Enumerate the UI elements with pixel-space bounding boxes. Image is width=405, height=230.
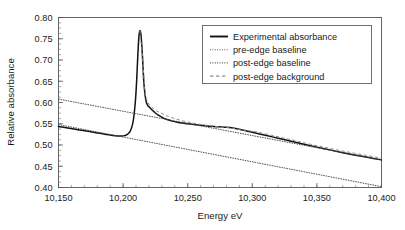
legend-label: post-edge baseline — [233, 58, 311, 68]
y-tick-label: 0.80 — [35, 13, 53, 23]
x-tick-label: 10,400 — [367, 193, 395, 203]
x-tick-label: 10,200 — [109, 193, 137, 203]
legend-label: pre-edge baseline — [233, 45, 307, 55]
legend-label: Experimental absorbance — [233, 32, 337, 42]
x-tick-label: 10,250 — [174, 193, 202, 203]
chart-figure: 0.400.450.500.550.600.650.700.750.80 10,… — [0, 0, 405, 230]
y-tick-label: 0.50 — [35, 140, 53, 150]
y-tick-label: 0.70 — [35, 55, 53, 65]
y-axis-title: Relative absorbance — [5, 58, 16, 145]
chart-canvas: 0.400.450.500.550.600.650.700.750.80 10,… — [0, 0, 405, 230]
y-tick-label: 0.65 — [35, 77, 53, 87]
y-tick-labels: 0.400.450.500.550.600.650.700.750.80 — [35, 13, 53, 193]
y-tick-label: 0.60 — [35, 98, 53, 108]
y-tick-label: 0.55 — [35, 119, 53, 129]
y-tick-label: 0.40 — [35, 183, 53, 193]
legend-label: post-edge background — [233, 72, 324, 82]
x-tick-label: 10,150 — [44, 193, 72, 203]
x-tick-label: 10,350 — [303, 193, 331, 203]
x-axis-title: Energy eV — [198, 210, 243, 221]
chart-legend: Experimental absorbancepre-edge baseline… — [203, 26, 372, 84]
x-tick-labels: 10,15010,20010,25010,30010,35010,400 — [44, 193, 395, 203]
y-tick-label: 0.75 — [35, 34, 53, 44]
y-tick-label: 0.45 — [35, 162, 53, 172]
x-tick-label: 10,300 — [238, 193, 266, 203]
